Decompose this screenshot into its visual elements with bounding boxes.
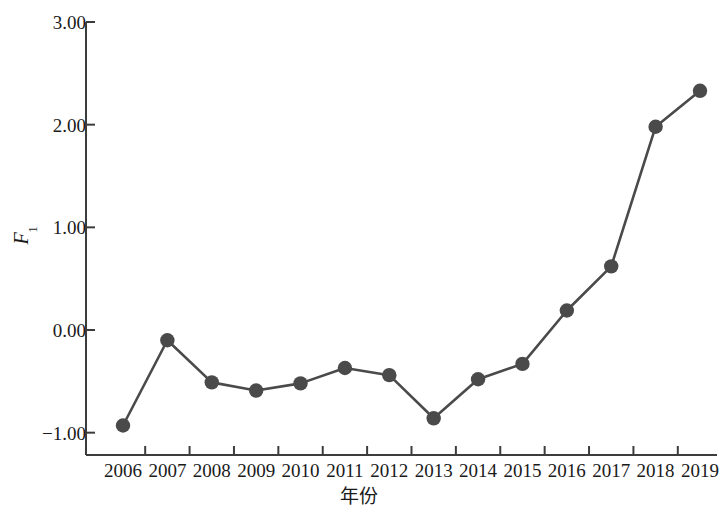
- data-point: [338, 361, 352, 375]
- data-point: [604, 259, 618, 273]
- axis-lines: [86, 22, 717, 455]
- data-point: [648, 120, 662, 134]
- data-point: [249, 383, 263, 397]
- data-point: [116, 418, 130, 432]
- data-point: [560, 303, 574, 317]
- data-point: [515, 357, 529, 371]
- data-point: [426, 411, 440, 425]
- data-point: [160, 333, 174, 347]
- x-axis-title: 年份: [0, 484, 717, 508]
- data-point: [693, 84, 707, 98]
- data-point: [205, 375, 219, 389]
- data-point: [471, 372, 485, 386]
- data-line: [123, 91, 700, 426]
- data-point: [293, 376, 307, 390]
- x-axis-tick-label: 2019: [674, 458, 723, 484]
- data-markers: [116, 84, 707, 433]
- x-axis-tick-labels: 2006200720082009201020112012201320142015…: [0, 458, 717, 486]
- x-axis-ticks: [145, 446, 678, 455]
- y-axis-ticks: [86, 22, 95, 433]
- data-point: [382, 368, 396, 382]
